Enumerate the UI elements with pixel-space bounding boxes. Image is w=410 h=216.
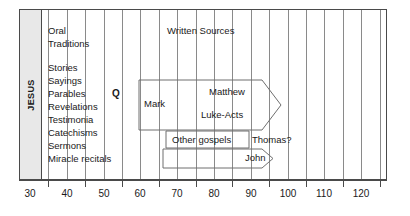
tick-85	[232, 181, 233, 187]
gridline-110	[324, 10, 325, 179]
label-traditions: Traditions	[48, 38, 89, 49]
tick-35	[48, 181, 49, 187]
label-john: John	[245, 152, 266, 163]
x-axis-line	[19, 180, 387, 181]
tick-75	[196, 181, 197, 187]
label-luke-acts: Luke-Acts	[201, 109, 243, 120]
axis-label-30: 30	[24, 188, 35, 199]
gridline-115	[343, 10, 344, 179]
gridline-105	[306, 10, 307, 179]
label-stories: Stories	[48, 62, 78, 73]
gridline-120	[361, 10, 362, 179]
jesus-era-label: JESUS	[20, 10, 42, 179]
gridline-60	[140, 10, 141, 179]
axis-label-110: 110	[316, 188, 332, 199]
diagram-root: JESUS Oral Traditions Stories Sayings Pa…	[0, 0, 410, 216]
axis-label-100: 100	[280, 188, 297, 199]
label-catechisms: Catechisms	[48, 127, 98, 138]
tick-105	[306, 181, 307, 187]
label-mark: Mark	[144, 98, 165, 109]
gridline-125	[380, 10, 381, 179]
label-written-sources: Written Sources	[167, 25, 234, 36]
jesus-label-text: JESUS	[26, 79, 36, 111]
tick-125	[380, 181, 381, 187]
label-thomas: Thomas?	[252, 134, 292, 145]
label-other-gospels: Other gospels	[172, 134, 231, 145]
gridline-95	[269, 10, 270, 179]
label-matthew: Matthew	[209, 86, 245, 97]
label-sayings: Sayings	[48, 75, 82, 86]
label-sermons: Sermons	[48, 140, 86, 151]
tick-55	[122, 181, 123, 187]
axis-label-120: 120	[353, 188, 370, 199]
axis-label-80: 80	[208, 188, 219, 199]
tick-95	[269, 181, 270, 187]
axis-label-70: 70	[171, 188, 182, 199]
axis-label-40: 40	[61, 188, 72, 199]
gridline-55	[122, 10, 123, 179]
tick-115	[343, 181, 344, 187]
label-q: Q	[112, 88, 120, 99]
gridline-65	[159, 10, 160, 179]
label-revelations: Revelations	[48, 101, 98, 112]
label-parables: Parables	[48, 88, 86, 99]
label-oral: Oral	[48, 25, 66, 36]
axis-label-90: 90	[245, 188, 256, 199]
gridline-100	[288, 10, 289, 179]
label-miracle-recitals: Miracle recitals	[48, 153, 111, 164]
tick-45	[85, 181, 86, 187]
axis-label-50: 50	[98, 188, 109, 199]
axis-label-60: 60	[134, 188, 145, 199]
label-testimonia: Testimonia	[48, 114, 93, 125]
tick-65	[159, 181, 160, 187]
